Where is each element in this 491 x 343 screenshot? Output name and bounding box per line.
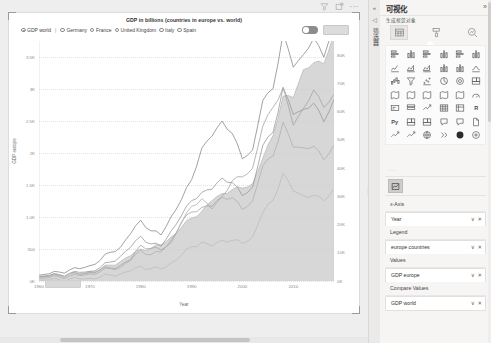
panel-title: 可视化 <box>386 3 407 14</box>
chevron-down-icon[interactable]: ∨ <box>471 245 475 251</box>
collapse-pane-icon[interactable]: « <box>369 5 380 11</box>
field-well-compare-values[interactable]: Compare ValuesGDP world∨✕ <box>385 282 486 311</box>
metrics-icon[interactable] <box>387 129 402 142</box>
scrollbar-thumb[interactable] <box>60 338 250 342</box>
table-icon[interactable] <box>436 102 451 115</box>
analytics-tab[interactable] <box>465 26 481 39</box>
data-label-pill <box>45 280 81 288</box>
focus-mode-icon[interactable] <box>335 2 344 11</box>
remove-field-icon[interactable]: ✕ <box>477 273 482 279</box>
x-axis-tick-label: 1980 <box>136 284 146 289</box>
funnel-chart-icon[interactable] <box>403 75 418 88</box>
well-field-chip[interactable]: Year∨✕ <box>385 212 486 227</box>
field-well-values[interactable]: ValuesGDP europe∨✕ <box>385 254 486 283</box>
map-icon[interactable] <box>387 89 402 102</box>
get-more-visuals-icon[interactable] <box>469 129 484 142</box>
well-field-chip[interactable]: GDP world∨✕ <box>385 296 486 311</box>
selected-visual-row <box>385 176 486 196</box>
q-and-a-icon[interactable] <box>436 116 451 129</box>
chevrons-icon[interactable] <box>436 129 451 142</box>
well-field-chip[interactable]: GDP europe∨✕ <box>385 268 486 283</box>
visual-chart-card[interactable]: ··· GDP in billions (countries in europe… <box>8 12 360 314</box>
filters-pane-label[interactable]: 筛选器 <box>371 28 380 46</box>
x-axis-tick-label: 1990 <box>187 284 197 289</box>
paginated-report-icon[interactable] <box>469 116 484 129</box>
visualizations-pane: « ◁ 筛选器 可视化 » 生成视觉对象 <box>368 0 491 343</box>
performance-icon[interactable] <box>403 129 418 142</box>
azure-map-icon[interactable] <box>436 89 451 102</box>
filled-map-icon[interactable] <box>403 89 418 102</box>
x-axis-tick-label: 1970 <box>85 284 95 289</box>
chevron-down-icon[interactable]: ∨ <box>471 301 475 307</box>
line-stacked-column-icon[interactable] <box>436 62 451 75</box>
stacked-column-chart-icon[interactable] <box>403 48 418 61</box>
chart-plot-svg <box>39 41 334 281</box>
clustered-bar-chart-icon[interactable] <box>420 48 435 61</box>
kpi-icon[interactable] <box>420 102 435 115</box>
dark-sphere-icon[interactable] <box>452 129 467 142</box>
report-canvas[interactable]: ··· GDP in billions (countries in europe… <box>0 0 368 343</box>
treemap-icon[interactable] <box>469 75 484 88</box>
arcgis-map-icon[interactable] <box>452 89 467 102</box>
y-axis-tick-label: 2.5K <box>15 119 35 124</box>
y-axis-tick-label: 2K <box>15 151 35 156</box>
plot-area: GDP europe GDP world Year 0K5001.0K1.5K2… <box>9 13 359 313</box>
waterfall-chart-icon[interactable] <box>387 75 402 88</box>
chevron-down-icon[interactable]: ∨ <box>471 273 475 279</box>
y2-axis-tick-label: 10K <box>337 250 345 255</box>
well-field-actions: ∨✕ <box>471 297 482 310</box>
clustered-column-chart-icon[interactable] <box>436 48 451 61</box>
y2-axis-tick-label: 20K <box>337 222 345 227</box>
well-field-actions: ∨✕ <box>471 213 482 226</box>
area-chart-icon[interactable] <box>403 62 418 75</box>
y-axis-tick-label: 1.0K <box>15 215 35 220</box>
well-label: Values <box>385 254 486 268</box>
pie-chart-icon[interactable] <box>436 75 451 88</box>
multi-row-card-icon[interactable] <box>403 102 418 115</box>
remove-field-icon[interactable]: ✕ <box>477 217 482 223</box>
r-script-visual-icon[interactable]: R <box>469 102 484 115</box>
gridline <box>39 281 334 283</box>
series-area-gdp-world <box>39 41 334 281</box>
gauge-icon[interactable] <box>469 89 484 102</box>
line-clustered-column-icon[interactable] <box>452 62 467 75</box>
line-chart-icon[interactable] <box>388 179 403 193</box>
remove-field-icon[interactable]: ✕ <box>477 301 482 307</box>
key-influencers-icon[interactable] <box>403 116 418 129</box>
panel-subtitle: 生成视觉对象 <box>386 17 416 23</box>
field-well-legend[interactable]: Legendeurope countries∨✕ <box>385 226 486 255</box>
more-options-icon[interactable]: ··· <box>350 4 360 10</box>
field-well-x-axis[interactable]: x-AxisYear∨✕ <box>385 198 486 227</box>
gallery-more-dots[interactable]: ··· <box>388 167 397 173</box>
scatter-chart-icon[interactable] <box>420 75 435 88</box>
visual-pane-tabs[interactable] <box>380 24 491 41</box>
stacked-area-chart-icon[interactable] <box>420 62 435 75</box>
donut-chart-icon[interactable] <box>452 75 467 88</box>
canvas-horizontal-scrollbar[interactable] <box>0 337 368 343</box>
visual-type-gallery[interactable]: RPy <box>385 45 486 145</box>
filter-icon[interactable] <box>320 2 329 11</box>
matrix-icon[interactable] <box>452 102 467 115</box>
build-visual-tab[interactable] <box>390 25 408 40</box>
line-chart-icon[interactable] <box>387 62 402 75</box>
100-stacked-bar-chart-icon[interactable] <box>452 48 467 61</box>
smart-narrative-icon[interactable] <box>452 116 467 129</box>
decomposition-tree-icon[interactable] <box>420 116 435 129</box>
globe-icon[interactable] <box>420 129 435 142</box>
y2-axis-tick-label: 80K <box>337 53 345 58</box>
expand-pane-icon[interactable]: » <box>483 3 487 10</box>
python-visual-icon[interactable]: Py <box>387 116 402 129</box>
chevron-down-icon[interactable]: ∨ <box>471 217 475 223</box>
panel-header: 可视化 » <box>380 0 491 16</box>
ribbon-chart-icon[interactable] <box>469 62 484 75</box>
x-axis-tick-label: 2010 <box>288 284 298 289</box>
shape-map-icon[interactable] <box>420 89 435 102</box>
back-arrow-icon[interactable]: ◁ <box>369 16 380 23</box>
well-field-chip[interactable]: europe countries∨✕ <box>385 240 486 255</box>
stacked-bar-chart-icon[interactable] <box>387 48 402 61</box>
format-visual-tab[interactable] <box>428 26 444 39</box>
remove-field-icon[interactable]: ✕ <box>477 245 482 251</box>
100-stacked-column-chart-icon[interactable] <box>469 48 484 61</box>
card-icon[interactable] <box>387 102 402 115</box>
